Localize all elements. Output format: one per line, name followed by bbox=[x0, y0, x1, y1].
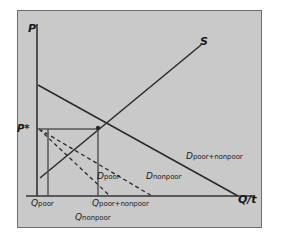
q-poor-plus-nonpoor-label: Qpoor+nonpoor bbox=[92, 199, 149, 208]
y-axis-label: P bbox=[28, 23, 36, 34]
demand-poor-curve-label: Dpoor bbox=[97, 172, 119, 181]
demand-poor-label-main: D bbox=[97, 171, 104, 181]
x-axis-label: Q/t bbox=[238, 194, 257, 205]
aggregate-demand-curve bbox=[38, 85, 238, 196]
figure-container: P Q/t P* S Dpoor+nonpoor Dpoor Dnonpoor … bbox=[0, 0, 283, 248]
q-poor-label-sub: poor bbox=[38, 199, 54, 208]
q-poor-label: Qpoor bbox=[31, 199, 54, 208]
q-poor-plus-nonpoor-label-sub: poor+nonpoor bbox=[99, 199, 149, 208]
demand-nonpoor-curve-label: Dnonpoor bbox=[146, 172, 181, 181]
q-nonpoor-label: Qnonpoor bbox=[75, 213, 111, 222]
demand-poor-curve bbox=[39, 129, 110, 196]
demand-nonpoor-label-sub: nonpoor bbox=[153, 172, 181, 181]
q-nonpoor-label-sub: nonpoor bbox=[82, 213, 110, 222]
demand-nonpoor-label-main: D bbox=[146, 171, 153, 181]
demand-poor-label-sub: poor bbox=[104, 172, 120, 181]
supply-curve-label: S bbox=[200, 36, 208, 47]
aggregate-demand-curve-label: Dpoor+nonpoor bbox=[186, 152, 243, 161]
equilibrium-price-label: P* bbox=[17, 124, 30, 134]
diagram-svg bbox=[0, 0, 283, 248]
equilibrium-point bbox=[96, 126, 100, 130]
aggregate-demand-label-sub: poor+nonpoor bbox=[193, 152, 243, 161]
aggregate-demand-label-main: D bbox=[186, 151, 193, 161]
supply-curve bbox=[40, 45, 201, 178]
